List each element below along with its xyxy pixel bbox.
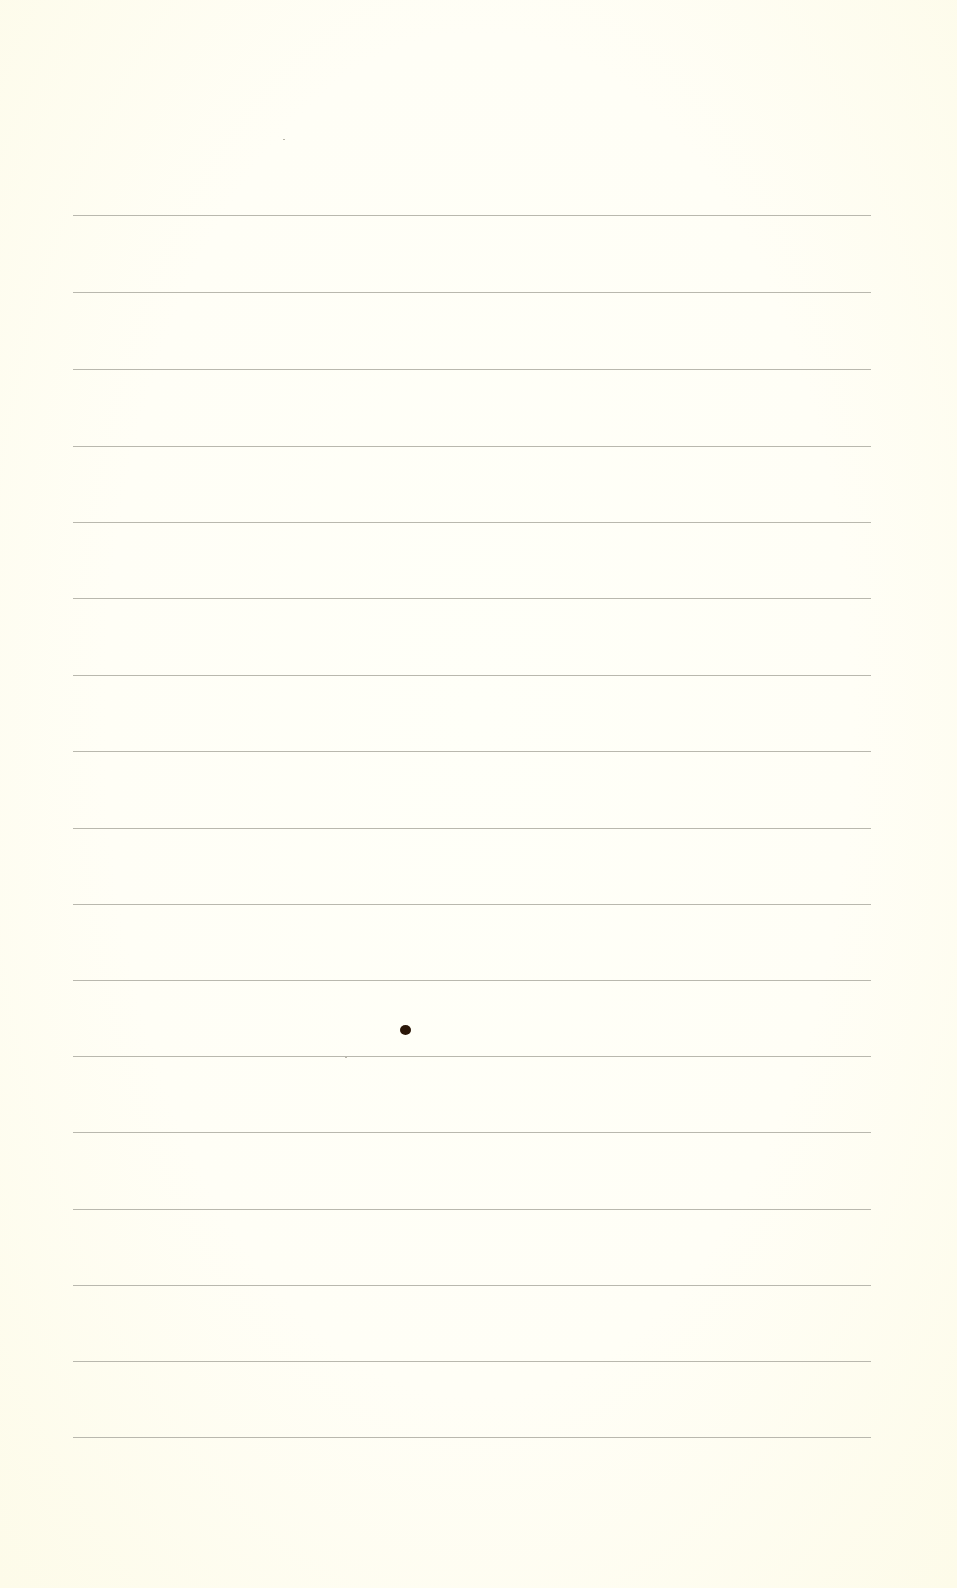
ruled-line	[73, 1209, 871, 1210]
paper-speck	[345, 1057, 347, 1058]
ink-dot	[400, 1025, 411, 1035]
ruled-line	[73, 980, 871, 981]
ruled-line	[73, 1285, 871, 1286]
ruled-line	[73, 369, 871, 370]
ruled-line	[73, 1132, 871, 1133]
ruled-line	[73, 751, 871, 752]
paper-speck	[283, 139, 285, 140]
ruled-line	[73, 446, 871, 447]
ruled-line	[73, 904, 871, 905]
ruled-paper-sheet	[0, 0, 957, 1588]
ruled-line	[73, 522, 871, 523]
ruled-line	[73, 215, 871, 216]
ruled-line	[73, 828, 871, 829]
ruled-line	[73, 1361, 871, 1362]
ruled-line	[73, 675, 871, 676]
ruled-line	[73, 1437, 871, 1438]
ruled-line	[73, 292, 871, 293]
ruled-line	[73, 1056, 871, 1057]
ruled-line	[73, 598, 871, 599]
